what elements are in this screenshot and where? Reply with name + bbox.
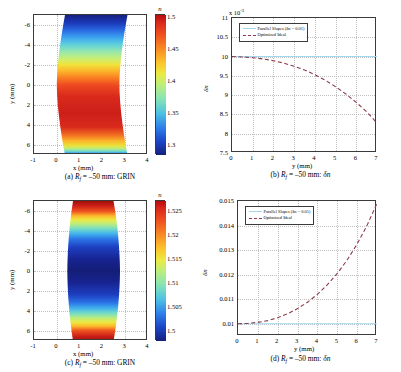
legend-entry: Parallel Slopes (δn = 0.01) [243,26,305,33]
panel-b-xtick: 0 [229,154,232,161]
panel-b-xtick: 3 [291,154,294,161]
panel-c-plot-area [33,200,147,340]
panel-c-ytick: 4 [13,307,30,314]
legend-label: Parallel Slopes (δn = 0.01) [264,209,311,216]
panel-c-caption-prefix: (c) [65,358,75,367]
panel-a-colorbar-title: n [154,5,166,12]
panel-d-caption: (d) Rf = –50 mm: δn [200,354,401,364]
panel-d-xtick: 7 [374,337,377,344]
panel-d-xtick: 5 [335,337,338,344]
panel-b-xtick: 7 [374,154,377,161]
panel-b-xaxis-label: y (mm) [292,162,312,169]
panel-a-xtick: 4 [145,156,148,163]
panel-d-ytick: 0.013 [205,246,234,253]
legend-entry: Parallel Slopes (δn = 0.01) [249,209,311,216]
panel-c-ytick: -6 [13,207,30,214]
panel-c-cbar-tick: 1.525 [167,207,182,214]
panel-b-axis-multiplier: x 10-3 [229,8,244,16]
legend-label: Parallel Slopes (δn = 0.01) [258,26,305,33]
panel-b-ytick: 9 [206,91,228,98]
legend-label: Optimized Ideal [264,215,292,222]
panel-b-caption-rest: = –50 mm: [287,170,323,179]
panel-a-cbar-tick: 1.5 [167,13,175,20]
panel-b: x 10-3 Parallel Slopes (δn = 0.01) [200,0,401,186]
panel-c-ytick: 0 [13,267,30,274]
panel-a-ytick: 6 [13,141,30,148]
panel-b-xtick: 6 [354,154,357,161]
panel-d-xtick: 3 [295,337,298,344]
panel-a-plot-area [33,14,147,154]
panel-b-caption-prefix: (b) [271,170,281,179]
panel-c: -6 -4 -2 0 2 4 6 -1 0 1 2 3 4 x (mm) y (… [0,186,200,372]
panel-a-ytick: 0 [13,81,30,88]
panel-c-colorbar [155,200,165,340]
panel-a-xtick: 0 [54,156,57,163]
legend-entry: Optimized Ideal [243,32,305,39]
panel-c-xtick: 4 [145,342,148,349]
legend-entry: Optimized Ideal [249,215,311,222]
panel-c-cbar-tick: 1.5 [167,327,175,334]
grin-map-a [34,15,147,154]
panel-d-legend: Parallel Slopes (δn = 0.01) Optimized Id… [245,206,314,225]
panel-b-ytick: 8.5 [206,110,228,117]
panel-b-ytick: 9.5 [206,71,228,78]
panel-c-caption: (c) Rf = –50 mm: GRIN [0,358,200,368]
panel-d-yaxis-label: δn [201,269,208,276]
panel-c-cbar-tick: 1.52 [167,231,179,238]
panel-a-xaxis-label: x (mm) [73,164,93,171]
panel-c-caption-rest: = –50 mm: GRIN [81,358,135,367]
panel-a-ytick: 2 [13,101,30,108]
panel-c-xtick: 0 [54,342,57,349]
panel-b-plot-area: Parallel Slopes (δn = 0.01) Optimized Id… [231,17,376,152]
panel-b-xtick: 2 [271,154,274,161]
series-optimized-ideal [232,57,377,123]
panel-a-caption-rest: = –50 mm: GRIN [81,172,135,181]
panel-b-ytick: 11 [206,14,228,21]
panel-c-xaxis-label: x (mm) [73,350,93,357]
grin-map-c [34,201,147,340]
panel-a-cbar-tick: 1.35 [167,109,179,116]
panel-c-xtick: 3 [123,342,126,349]
legend-key-optimized-ideal [249,218,262,219]
panel-c-cbar-tick: 1.51 [167,279,179,286]
panel-a-xtick: 1 [77,156,80,163]
panel-c-ytick: -4 [13,227,30,234]
legend-key-optimized-ideal [243,35,256,36]
panel-a-ytick: -4 [13,41,30,48]
panel-d-xaxis-label: y (mm) [294,345,314,352]
panel-d-ytick: 0.014 [205,221,234,228]
panel-a-caption: (a) Rf = –50 mm: GRIN [0,172,200,182]
panel-b-ytick: 8 [206,129,228,136]
panel-d-caption-delta: δn [323,354,330,363]
panel-d-ytick: 0.01 [205,319,234,326]
panel-b-xtick: 1 [250,154,253,161]
panel-b-ytick: 10 [206,52,228,59]
panel-c-ytick: -2 [13,247,30,254]
panel-b-ytick: 7.5 [206,149,228,156]
panel-d-xtick: 0 [235,337,238,344]
panel-b-yaxis-label: δn [202,85,209,92]
panel-b-xtick: 5 [333,154,336,161]
panel-d-xtick: 1 [255,337,258,344]
panel-d: Parallel Slopes (δn = 0.01) Optimized Id… [200,186,401,372]
panel-c-xtick: 1 [77,342,80,349]
panel-a-caption-prefix: (a) [65,172,75,181]
panel-a-yaxis-label: y (mm) [8,84,15,104]
panel-c-xtick: 2 [100,342,103,349]
panel-b-mult-exp: -3 [240,8,244,13]
panel-a-ytick: 4 [13,121,30,128]
panel-b-mult-base: x 10 [229,9,240,16]
panel-d-xtick: 4 [315,337,318,344]
legend-label: Optimized Ideal [258,32,286,39]
panel-c-cbar-tick: 1.505 [167,303,182,310]
panel-d-plot-area: Parallel Slopes (δn = 0.01) Optimized Id… [237,200,376,335]
panel-d-ytick: 0.015 [205,197,234,204]
panel-c-ytick: 2 [13,287,30,294]
panel-b-ytick: 10.5 [206,33,228,40]
panel-a-xtick: 3 [123,156,126,163]
panel-a: -6 -4 -2 0 2 4 6 -1 0 1 2 3 4 x (mm) y (… [0,0,200,186]
panel-a-colorbar [155,14,165,154]
panel-d-ytick: 0.011 [205,295,234,302]
panel-c-xtick: -1 [30,342,36,349]
panel-b-legend: Parallel Slopes (δn = 0.01) Optimized Id… [239,23,308,42]
